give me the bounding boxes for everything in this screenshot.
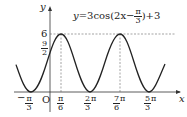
equation-label: y=3cos(2x−π3)+3 — [73, 8, 160, 25]
y-tick-9-2: 92 — [41, 38, 48, 57]
x-tick-2pi-3: 23π — [84, 93, 96, 112]
frac-den: 6 — [58, 104, 63, 112]
x-axis-label: x — [179, 94, 185, 104]
x-tick-pi-6: π6 — [57, 93, 64, 112]
x-tick-7pi-6: 76π — [113, 93, 125, 112]
eq-close: )+3 — [142, 10, 161, 21]
eq-open: (2x− — [110, 10, 134, 21]
frac-den: 3 — [145, 104, 150, 112]
y-axis-label: y — [40, 2, 46, 12]
x-tick-neg-pi-3: −π3 — [17, 93, 33, 112]
pi-suffix: π — [91, 94, 96, 103]
cosine-curve — [16, 34, 165, 92]
pi-suffix: π — [151, 94, 156, 103]
sign: − — [17, 92, 25, 103]
frac-den: 6 — [114, 104, 119, 112]
frac-den: 2 — [42, 49, 47, 57]
x-tick-5pi-3: 53π — [144, 93, 156, 112]
y-axis-arrow-icon — [48, 6, 52, 11]
origin-label: O — [42, 95, 50, 105]
eq-func: =3cos — [79, 10, 111, 21]
eq-den: 3 — [136, 17, 141, 25]
frac-den: 3 — [85, 104, 90, 112]
frac-den: 3 — [26, 104, 31, 112]
pi-suffix: π — [120, 94, 125, 103]
